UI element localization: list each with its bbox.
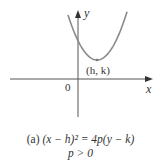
y-axis-arrow-icon (75, 10, 81, 18)
parabola-curve (68, 12, 127, 60)
y-axis-label: y (83, 6, 90, 20)
caption-equation-line: (a) (x − h)² = 4p(y − k) (0, 132, 161, 146)
caption-condition-text: p > 0 (68, 147, 93, 159)
vertex-point (96, 59, 99, 62)
caption-condition: p > 0 (0, 146, 161, 160)
x-axis-label: x (145, 82, 152, 96)
vertex-label: (h, k) (86, 64, 110, 77)
caption-equation: (x − h)² = 4p(y − k) (42, 133, 134, 145)
origin-label: 0 (65, 81, 71, 93)
caption-prefix: (a) (27, 133, 40, 145)
